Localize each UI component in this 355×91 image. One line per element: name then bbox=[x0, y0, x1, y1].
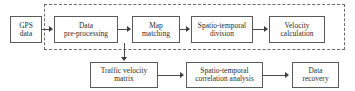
node-velocity-calculation-label: Velocity calculation bbox=[281, 22, 314, 38]
node-velocity-calculation: Velocity calculation bbox=[269, 16, 325, 43]
edge-correlation-to-recovery bbox=[263, 75, 286, 76]
node-data-preprocessing: Data pre-processing bbox=[54, 16, 118, 43]
node-spatio-temporal-division: Spatio-temporal division bbox=[191, 16, 253, 43]
arrowhead-gps-to-preprocessing bbox=[49, 26, 53, 32]
arrowhead-preprocessing-to-mapmatching bbox=[127, 26, 131, 32]
arrowhead-matrix-to-correlation bbox=[180, 72, 184, 78]
node-spatio-temporal-correlation-analysis-label: Spatio-temporal correlation analysis bbox=[195, 67, 254, 83]
flowchart-figure: GPS data Data pre-processing Map matchin… bbox=[0, 0, 355, 91]
edge-division-to-velocity bbox=[253, 29, 264, 30]
arrowhead-correlation-to-recovery bbox=[285, 72, 289, 78]
arrowhead-division-to-velocity bbox=[264, 26, 268, 32]
node-map-matching: Map matching bbox=[132, 16, 180, 43]
node-data-recovery-label: Data recovery bbox=[302, 67, 328, 83]
node-spatio-temporal-division-label: Spatio-temporal division bbox=[198, 22, 246, 38]
node-traffic-velocity-matrix: Traffic velocity matrix bbox=[90, 62, 158, 88]
edge-matrix-to-correlation bbox=[158, 75, 181, 76]
node-spatio-temporal-correlation-analysis: Spatio-temporal correlation analysis bbox=[186, 62, 263, 88]
node-gps-data-label: GPS data bbox=[19, 22, 33, 38]
arrowhead-pipeline-to-traffic-matrix bbox=[121, 57, 127, 61]
node-data-preprocessing-label: Data pre-processing bbox=[64, 22, 108, 38]
node-data-recovery: Data recovery bbox=[292, 62, 339, 88]
node-traffic-velocity-matrix-label: Traffic velocity matrix bbox=[101, 67, 148, 83]
node-gps-data: GPS data bbox=[10, 16, 42, 43]
node-map-matching-label: Map matching bbox=[142, 22, 170, 38]
arrowhead-mapmatching-to-division bbox=[186, 26, 190, 32]
